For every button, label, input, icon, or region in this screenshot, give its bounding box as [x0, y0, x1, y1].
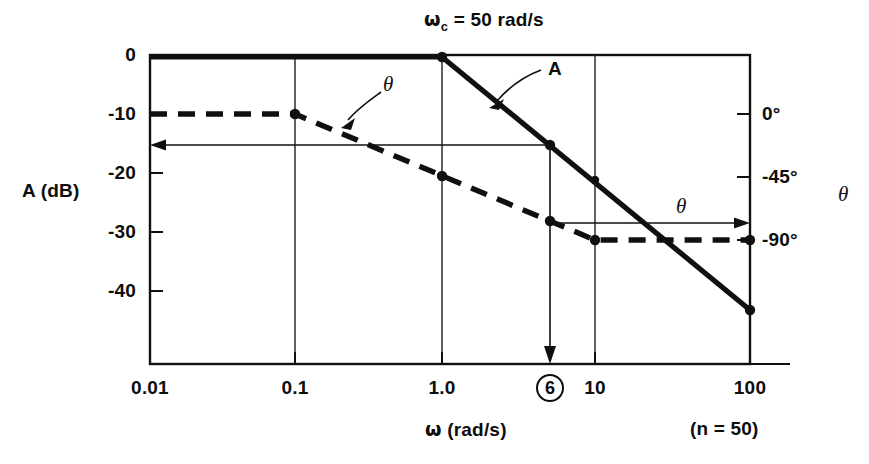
ytick-label-0: 0: [88, 44, 136, 66]
x-axis-unit: (rad/s): [442, 419, 507, 440]
xtick-label-0p01: 0.01: [110, 377, 190, 399]
marked-frequency-badge: 6: [536, 374, 564, 402]
left-axis-ticks: [150, 114, 163, 291]
phase-readout-arrowhead: [734, 218, 750, 229]
phase-point-10: [590, 235, 600, 245]
phase-readout-label-theta: θ: [676, 194, 687, 219]
magnitude-point-10: [591, 176, 599, 184]
ytick-label--10: -10: [70, 103, 136, 125]
callout-theta-curve: [348, 92, 381, 120]
magnitude-curve-a: [150, 52, 755, 315]
plot-frame: [150, 55, 750, 364]
magnitude-point-6: [545, 140, 555, 150]
xtick-label-1p0: 1.0: [406, 377, 478, 399]
phase-point-6: [545, 216, 555, 226]
n-note-label: (n = 50): [690, 418, 759, 440]
rtick-label--90deg: -90°: [762, 229, 798, 251]
axes-border: [150, 55, 750, 364]
ytick-label--40: -40: [70, 280, 136, 302]
dropline-arrowhead: [544, 346, 556, 364]
ytick-label--30: -30: [70, 221, 136, 243]
phase-point-100: [745, 235, 755, 245]
xtick-label-100: 100: [715, 377, 785, 399]
bode-plot-figure: ωc = 50 rad/s 0 -10 -20 -30 -40 A (dB) 0…: [0, 0, 869, 464]
theta-axis-title: θ: [838, 182, 849, 207]
callout-label-theta: θ: [383, 72, 394, 97]
phase-point-0p1: [290, 109, 300, 119]
xtick-label-0p1: 0.1: [260, 377, 330, 399]
magnitude-curve-line: [150, 57, 750, 310]
bottom-axis-ticks: [150, 352, 790, 364]
marked-frequency-dropline: [544, 145, 556, 364]
xtick-label-10: 10: [563, 377, 627, 399]
magnitude-point-100: [745, 305, 755, 315]
magnitude-point-1p0: [437, 52, 447, 62]
y-axis-title: A (dB): [22, 180, 79, 202]
rtick-label--45deg: -45°: [762, 166, 798, 188]
amplitude-readout-arrowhead: [150, 140, 166, 151]
callout-a-leader: [489, 70, 541, 110]
omega-c-annotation: ωc = 50 rad/s: [424, 8, 544, 34]
omega-c-symbol: ω: [424, 8, 441, 30]
phase-curve-line: [150, 114, 750, 240]
phase-point-1p0: [437, 171, 447, 181]
rtick-label-0deg: 0°: [762, 103, 781, 125]
callout-theta-leader: [341, 92, 381, 130]
phase-curve-theta: [150, 109, 755, 245]
callout-a-curve: [497, 70, 541, 101]
callout-label-a: A: [548, 58, 562, 80]
omega-c-value: = 50 rad/s: [448, 9, 544, 30]
x-axis-title: ω (rad/s): [425, 418, 507, 441]
amplitude-readout-arrow: [150, 140, 550, 151]
omega-symbol: ω: [425, 418, 442, 440]
ytick-label--20: -20: [70, 162, 136, 184]
